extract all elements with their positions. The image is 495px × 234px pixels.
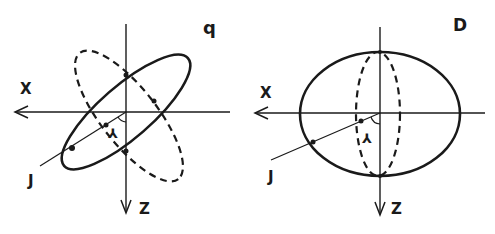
z-axis-label: Z xyxy=(139,200,150,218)
z-axis xyxy=(121,24,131,213)
ray-label: J xyxy=(27,172,34,190)
angle-arc xyxy=(118,117,126,122)
x-axis-label: X xyxy=(20,80,32,98)
angle-label: ⅄ xyxy=(362,131,372,146)
ray-label: J xyxy=(267,168,274,186)
figure-canvas: X Z J ⅄ q X Z J ⅄ D xyxy=(0,0,495,234)
panel-left: X Z J ⅄ q xyxy=(15,17,230,218)
panel-label: q xyxy=(203,17,216,38)
panel-right: X Z J ⅄ D xyxy=(255,15,485,218)
angle-arc xyxy=(371,117,380,124)
z-axis-label: Z xyxy=(391,200,402,218)
panel-label: D xyxy=(453,15,467,35)
angle-label: ⅄ xyxy=(108,126,118,141)
x-axis xyxy=(15,106,230,118)
x-axis-label: X xyxy=(260,84,272,102)
dashed-ellipse xyxy=(58,36,201,197)
z-axis xyxy=(375,27,385,215)
